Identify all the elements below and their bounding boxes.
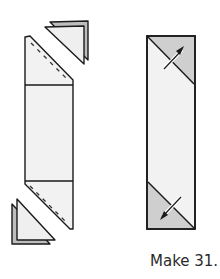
right-unit-strip <box>147 36 195 229</box>
left-unit-strip <box>25 36 73 229</box>
instruction-caption: Make 31. <box>150 252 218 270</box>
quilt-assembly-diagram <box>0 0 220 279</box>
strip-body <box>25 36 73 229</box>
